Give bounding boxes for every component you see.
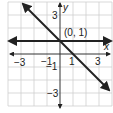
y-tick-neg1: −1 (46, 61, 58, 72)
coordinate-graph: y x (0, 1) −3 −1 1 3 3 −1 −3 (0, 0, 113, 113)
point-label: (0, 1) (64, 27, 87, 38)
x-tick-3: 3 (95, 56, 101, 67)
x-tick-neg3: −3 (14, 57, 26, 68)
diagonal-line (23, 4, 109, 90)
y-axis-label: y (62, 2, 69, 13)
x-tick-1: 1 (69, 56, 75, 67)
x-axis-label: x (103, 41, 110, 52)
y-tick-3: 3 (52, 10, 58, 21)
y-tick-neg3: −3 (47, 88, 59, 99)
